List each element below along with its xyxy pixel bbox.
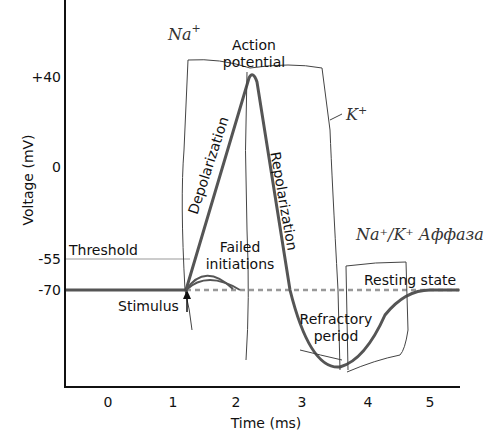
x-tick-5: 5: [426, 394, 435, 410]
y-tick-0: 0: [52, 159, 61, 175]
handwritten-na-note: Na+: [167, 22, 201, 44]
stimulus-label: Stimulus: [118, 298, 179, 314]
handwritten-k-note: K+: [345, 104, 367, 124]
refractory-line2: period: [314, 328, 359, 344]
repolarization-label: Repolarization: [267, 150, 300, 251]
y-axis-label: Voltage (mV): [20, 134, 36, 225]
handwritten-pump-note: Na⁺/K⁺ Аффаза: [355, 225, 484, 244]
action-potential-curve: [66, 75, 459, 367]
threshold-label: Threshold: [68, 242, 138, 258]
title-line1: Action: [232, 37, 276, 53]
x-tick-3: 3: [298, 394, 307, 410]
failed-initiations-line1: Failed: [220, 239, 261, 255]
resting-state-label: Resting state: [364, 272, 456, 288]
y-tick-minus70: -70: [38, 282, 61, 298]
x-tick-1: 1: [169, 394, 178, 410]
y-tick-minus55: -55: [38, 251, 61, 267]
x-tick-0: 0: [104, 394, 113, 410]
x-tick-2: 2: [232, 394, 241, 410]
y-tick-plus40: +40: [31, 69, 61, 85]
title-line2: potential: [223, 54, 285, 70]
refractory-line1: Refractory: [300, 311, 373, 327]
x-axis-label: Time (ms): [230, 415, 302, 431]
action-potential-chart: +40 0 -55 -70 Voltage (mV) 0 1 2 3 4 5 T…: [0, 0, 497, 445]
handwritten-kplus-pointer: [330, 114, 342, 120]
x-tick-4: 4: [364, 394, 373, 410]
failed-initiations-line2: initiations: [206, 256, 275, 272]
